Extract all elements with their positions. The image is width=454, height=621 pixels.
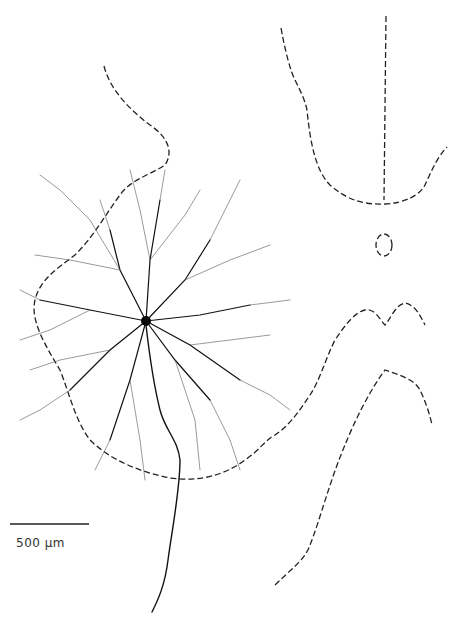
neuron-drawing bbox=[0, 0, 454, 621]
scale-bar-label: 500 µm bbox=[16, 536, 65, 550]
region-boundaries bbox=[34, 16, 447, 585]
neuron-figure: 500 µm bbox=[0, 0, 454, 621]
